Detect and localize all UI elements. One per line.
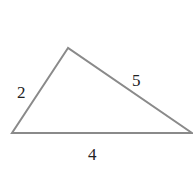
triangle-diagram: 2 5 4	[0, 0, 193, 176]
side-label-right: 5	[132, 71, 141, 90]
side-label-base: 4	[88, 145, 97, 164]
triangle-shape	[12, 48, 192, 133]
side-label-left: 2	[17, 83, 26, 102]
